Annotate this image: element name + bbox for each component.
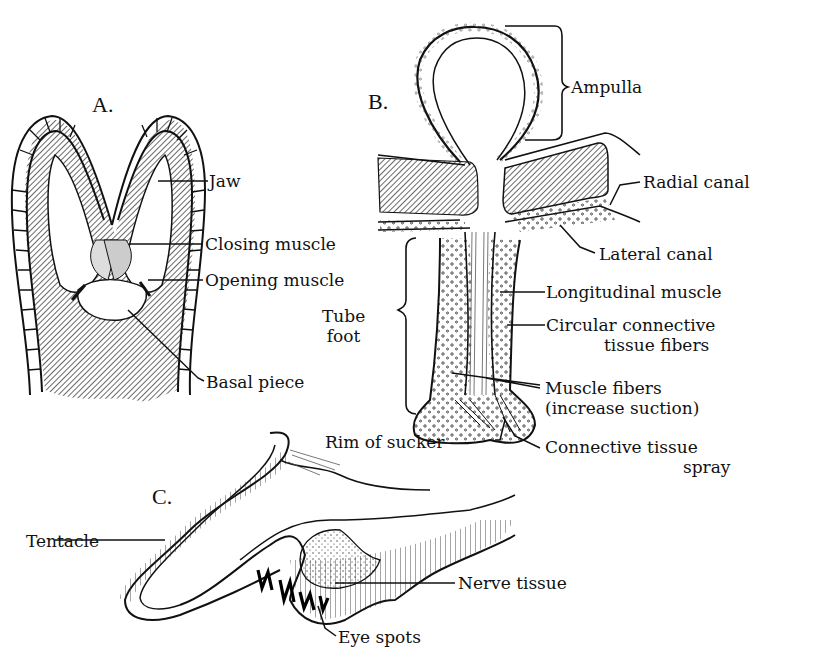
label-lateral-canal: Lateral canal [599, 244, 713, 264]
label-tube-foot: Tube foot [322, 306, 365, 346]
label-nerve-tissue: Nerve tissue [458, 573, 567, 593]
label-circular-line1: Circular connective [546, 315, 715, 335]
label-muscle-fibers: Muscle fibers (increase suction) [545, 378, 699, 418]
label-tube-line1: Tube [322, 306, 365, 326]
label-circular-line2: tissue fibers [546, 335, 715, 355]
label-tube-line2: foot [322, 326, 365, 346]
label-rim-of-sucker: Rim of sucker [325, 432, 444, 452]
label-eye-spots: Eye spots [338, 627, 421, 647]
label-muscle-fibers-line1: Muscle fibers [545, 378, 699, 398]
label-opening-muscle: Opening muscle [205, 270, 344, 290]
label-connective-line1: Connective tissue [545, 437, 730, 457]
panel-c-tentacle-drawing [55, 432, 515, 636]
panel-a-jaw-drawing [12, 116, 208, 401]
label-basal-piece: Basal piece [206, 372, 304, 392]
label-radial-canal: Radial canal [643, 172, 750, 192]
label-tentacle: Tentacle [26, 531, 99, 551]
label-closing-muscle: Closing muscle [205, 234, 336, 254]
label-longitudinal-muscle: Longitudinal muscle [546, 282, 722, 302]
label-connective-tissue-spray: Connective tissue spray [545, 437, 730, 477]
label-ampulla: Ampulla [571, 77, 642, 97]
panel-label-c: C. [152, 484, 172, 510]
label-circular-connective-tissue-fibers: Circular connective tissue fibers [546, 315, 715, 355]
label-jaw: Jaw [209, 171, 241, 191]
label-connective-line2: spray [545, 457, 730, 477]
label-muscle-fibers-line2: (increase suction) [545, 398, 699, 418]
panel-label-b: B. [368, 89, 388, 115]
panel-label-a: A. [92, 92, 113, 118]
